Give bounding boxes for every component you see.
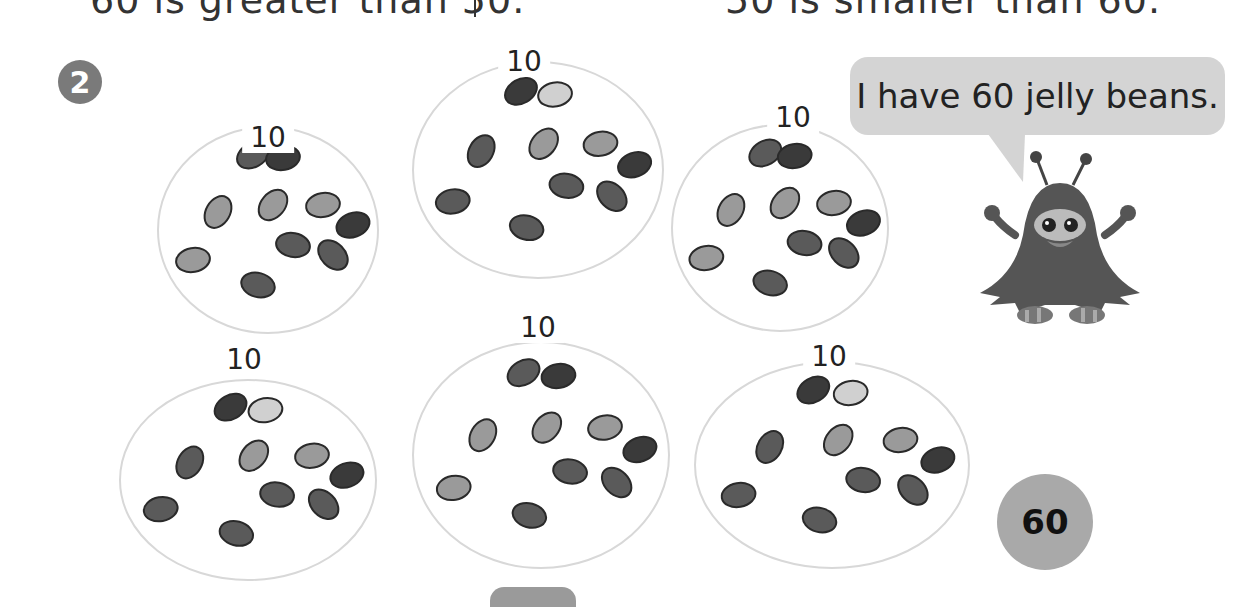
jelly-bean-icon [293,441,331,471]
speech-bubble: I have 60 jelly beans. [850,57,1225,135]
answer-value: 60 [1021,502,1068,542]
jelly-bean-icon [247,395,285,425]
jelly-bean-icon [303,484,344,525]
jelly-bean-icon [892,469,933,510]
jelly-bean-icon [507,212,546,244]
jelly-bean-icon [333,208,373,242]
jelly-bean-icon [503,354,544,392]
jelly-bean-icon [304,190,342,220]
speech-bubble-text: I have 60 jelly beans. [856,76,1219,116]
jelly-bean-icon [751,267,790,299]
jelly-bean-icon [918,443,958,477]
jelly-bean-icon [586,413,624,443]
jelly-bean-icon [536,80,574,110]
jelly-bean-icon [500,72,541,110]
jelly-bean-icon [620,432,660,466]
jelly-bean-icon [582,129,620,159]
jelly-bean-icon [524,123,564,164]
jelly-bean-icon [434,187,472,217]
jelly-bean-icon [234,435,274,476]
jelly-bean-icon [274,230,312,260]
jelly-bean-icon [844,465,882,495]
jelly-bean-icon [462,130,500,171]
jelly-bean-icon [882,425,920,455]
jelly-bean-icon [551,457,589,487]
group-count-label: 10 [512,313,564,343]
jelly-bean-icon [238,269,277,301]
jelly-bean-icon [142,494,180,524]
jelly-bean-icon [765,182,805,223]
jelly-bean-icon [615,148,655,182]
jelly-bean-icon [786,228,824,258]
group-count-label: 10 [767,103,819,133]
jelly-bean-icon [217,517,256,549]
jelly-bean-icon [823,232,864,273]
jelly-bean-icon [751,426,789,467]
jelly-bean-icon [818,419,858,460]
jelly-bean-icon [199,191,237,232]
jelly-bean-icon [174,245,212,275]
jelly-bean-icon [843,206,883,240]
jelly-bean-icon [210,388,251,426]
jelly-bean-icon [253,184,293,225]
jelly-bean-icon [540,361,578,391]
jelly-bean-icon [815,188,853,218]
jelly-bean-icon [591,176,632,217]
jelly-bean-icon [464,415,502,456]
jelly-bean-icon [596,462,637,503]
jelly-bean-icon [720,480,758,510]
jelly-bean-icon [527,407,567,448]
group-count-label: 10 [242,123,294,153]
bottom-tab [490,587,576,607]
monster-character-icon [975,145,1145,330]
jelly-bean-icon [312,234,353,275]
jelly-bean-icon [327,458,367,492]
answer-circle: 60 [997,474,1093,570]
jelly-bean-icon [510,499,549,531]
jelly-bean-icon [832,378,870,408]
jelly-bean-icon [793,371,834,409]
group-count-label: 10 [498,47,550,77]
jelly-bean-icon [688,243,726,273]
jelly-bean-icon [258,480,296,510]
group-count-label: 10 [803,342,855,372]
jelly-bean-icon [800,504,839,536]
jelly-bean-icon [712,189,750,230]
jelly-bean-icon [548,171,586,201]
jelly-bean-icon [435,473,473,503]
jelly-bean-icon [171,442,209,483]
group-count-label: 10 [218,345,270,375]
